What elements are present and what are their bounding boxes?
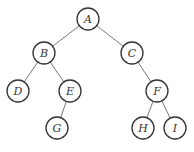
edge-A-C <box>97 26 124 47</box>
node-A: A <box>77 8 99 30</box>
node-H: H <box>132 117 154 139</box>
edge-E-G <box>61 101 67 117</box>
binary-tree-diagram: ABCDEFGHI <box>0 0 194 152</box>
node-E: E <box>59 80 81 102</box>
node-label: H <box>137 122 148 135</box>
node-label: G <box>53 122 62 135</box>
node-label: F <box>152 85 161 98</box>
node-F: F <box>146 80 168 102</box>
edge-B-D <box>24 62 38 82</box>
node-label: D <box>13 85 23 98</box>
node-label: A <box>83 13 92 26</box>
node-label: C <box>128 47 137 60</box>
edge-B-E <box>50 62 64 82</box>
edges <box>24 26 170 118</box>
node-D: D <box>7 80 29 102</box>
node-label: B <box>39 47 48 60</box>
node-B: B <box>33 42 55 64</box>
node-I: I <box>164 117 186 139</box>
node-C: C <box>121 42 143 64</box>
nodes: ABCDEFGHI <box>7 8 186 139</box>
node-G: G <box>46 117 68 139</box>
edge-A-B <box>53 26 80 47</box>
node-label: E <box>65 85 74 98</box>
tree-canvas: ABCDEFGHI <box>0 0 194 152</box>
edge-C-F <box>138 62 151 82</box>
edge-F-H <box>147 101 153 117</box>
node-label: I <box>172 122 178 135</box>
edge-F-I <box>162 101 170 118</box>
